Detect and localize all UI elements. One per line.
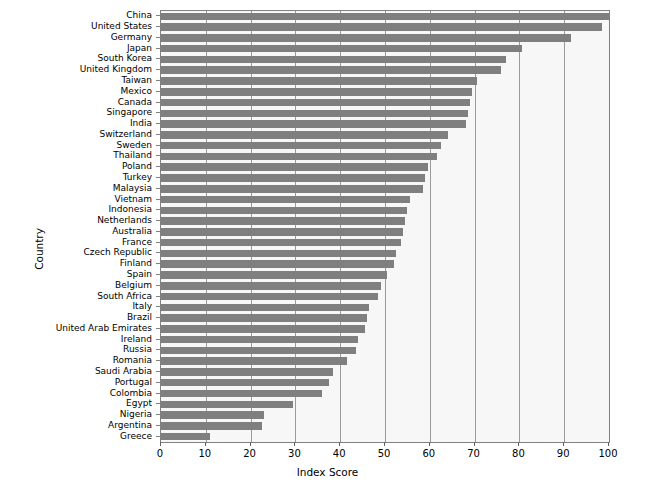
bar-row — [161, 13, 609, 21]
y-axis-label: Spain — [127, 269, 152, 279]
y-axis-label: Italy — [132, 301, 152, 311]
y-axis-label: United States — [91, 21, 152, 31]
y-tick — [156, 436, 160, 437]
y-axis-label: Vietnam — [114, 194, 152, 204]
bar[interactable] — [161, 325, 365, 333]
y-axis-label: Thailand — [113, 150, 152, 160]
bar[interactable] — [161, 56, 506, 64]
y-axis-label: Argentina — [108, 420, 152, 430]
bar-row — [161, 207, 609, 215]
bar-row — [161, 390, 609, 398]
y-axis-label: Colombia — [110, 388, 152, 398]
bar[interactable] — [161, 390, 322, 398]
bar-row — [161, 250, 609, 258]
bar[interactable] — [161, 77, 477, 85]
y-tick — [156, 145, 160, 146]
bar[interactable] — [161, 347, 356, 355]
bar-row — [161, 239, 609, 247]
bar[interactable] — [161, 131, 448, 139]
y-axis-label: United Kingdom — [80, 64, 152, 74]
y-tick — [156, 80, 160, 81]
x-tick-label: 80 — [498, 448, 538, 459]
x-tick — [384, 442, 385, 446]
y-axis-label: Ireland — [121, 334, 152, 344]
bar[interactable] — [161, 422, 262, 430]
bar[interactable] — [161, 411, 264, 419]
bar[interactable] — [161, 304, 369, 312]
bar[interactable] — [161, 282, 381, 290]
y-axis-label: India — [130, 118, 152, 128]
bar[interactable] — [161, 271, 387, 279]
bar-row — [161, 110, 609, 118]
bar-series — [161, 11, 609, 442]
y-tick — [156, 371, 160, 372]
y-tick — [156, 37, 160, 38]
y-axis-label: Poland — [122, 161, 152, 171]
y-axis-label: Malaysia — [113, 183, 152, 193]
bar-row — [161, 34, 609, 42]
bar-row — [161, 142, 609, 150]
bar[interactable] — [161, 110, 468, 118]
bar[interactable] — [161, 401, 293, 409]
bar-row — [161, 163, 609, 171]
bar-row — [161, 325, 609, 333]
bar[interactable] — [161, 217, 405, 225]
bar-row — [161, 304, 609, 312]
bar[interactable] — [161, 45, 522, 53]
y-tick — [156, 317, 160, 318]
bar-row — [161, 293, 609, 301]
bar-row — [161, 77, 609, 85]
y-axis-label: Indonesia — [108, 204, 152, 214]
y-tick — [156, 102, 160, 103]
bar[interactable] — [161, 293, 378, 301]
bar[interactable] — [161, 207, 407, 215]
bar-row — [161, 271, 609, 279]
y-axis-label: Australia — [112, 226, 152, 236]
bar[interactable] — [161, 357, 347, 365]
bar-row — [161, 282, 609, 290]
bar[interactable] — [161, 34, 571, 42]
bar[interactable] — [161, 379, 329, 387]
bar[interactable] — [161, 239, 401, 247]
y-axis-label: Netherlands — [97, 215, 152, 225]
bar[interactable] — [161, 260, 394, 268]
bar[interactable] — [161, 99, 470, 107]
y-axis-category-labels: ChinaUnited StatesGermanyJapanSouth Kore… — [0, 10, 156, 441]
bar[interactable] — [161, 196, 410, 204]
x-tick-label: 60 — [409, 448, 449, 459]
bar[interactable] — [161, 163, 428, 171]
y-tick — [156, 242, 160, 243]
bar[interactable] — [161, 336, 358, 344]
bar-row — [161, 422, 609, 430]
bar-row — [161, 99, 609, 107]
bar[interactable] — [161, 13, 609, 21]
y-tick — [156, 48, 160, 49]
y-axis-label: Czech Republic — [83, 247, 152, 257]
x-tick-label: 90 — [543, 448, 583, 459]
y-axis-label: Finland — [120, 258, 152, 268]
bar-row — [161, 131, 609, 139]
bar[interactable] — [161, 23, 602, 31]
bar[interactable] — [161, 228, 403, 236]
y-axis-label: Japan — [127, 43, 152, 53]
bar[interactable] — [161, 120, 466, 128]
bar[interactable] — [161, 433, 210, 441]
bar[interactable] — [161, 250, 396, 258]
bar[interactable] — [161, 314, 367, 322]
bar[interactable] — [161, 185, 423, 193]
y-tick — [156, 382, 160, 383]
bar-row — [161, 314, 609, 322]
y-tick — [156, 328, 160, 329]
y-axis-label: United Arab Emirates — [56, 323, 152, 333]
bar[interactable] — [161, 153, 437, 161]
y-axis-label: China — [126, 10, 152, 20]
bar[interactable] — [161, 66, 501, 74]
bar[interactable] — [161, 368, 333, 376]
y-axis-title: Country — [33, 228, 45, 270]
y-axis-label: Romania — [113, 355, 152, 365]
x-tick-label: 40 — [319, 448, 359, 459]
bar[interactable] — [161, 88, 472, 96]
bar[interactable] — [161, 142, 441, 150]
x-tick-label: 10 — [185, 448, 225, 459]
bar[interactable] — [161, 174, 425, 182]
